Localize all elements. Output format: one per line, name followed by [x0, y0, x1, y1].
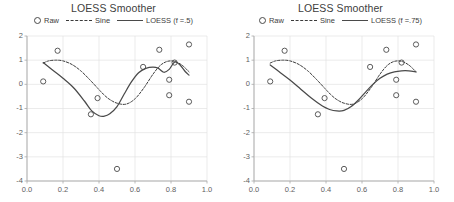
- chart-panel-left: LOESS Smoother Raw Sine LOESS (f =.5) 21…: [0, 0, 227, 202]
- data-point-raw: [413, 42, 418, 47]
- x-axis-tick-label: 0.0: [22, 185, 32, 194]
- x-axis-tick-label: 1.0: [202, 185, 212, 194]
- data-point-raw: [88, 112, 93, 117]
- data-point-raw: [95, 96, 100, 101]
- x-axis-tick-label: 0.8: [166, 185, 176, 194]
- y-axis-tick-label: -2: [243, 128, 250, 137]
- x-axis-tick-label: 0.0: [249, 185, 259, 194]
- data-point-raw: [141, 64, 146, 69]
- data-point-raw: [114, 166, 119, 171]
- chart-panel-right: LOESS Smoother Raw Sine LOESS (f =.75) 2…: [227, 0, 454, 202]
- data-point-raw: [399, 60, 404, 65]
- y-axis-tick-label: -1: [243, 103, 250, 112]
- x-axis-tick-label: 0.6: [357, 185, 367, 194]
- y-axis-tick-label: 2: [19, 31, 23, 40]
- plot-area-right: 210-1-2-3-40.00.20.40.60.81.0: [227, 0, 454, 202]
- sine-curve: [43, 60, 189, 104]
- y-axis-tick-label: -3: [243, 152, 250, 161]
- loess-curve: [270, 65, 416, 111]
- y-axis-tick-label: 0: [246, 79, 250, 88]
- x-axis-tick-label: 0.8: [393, 185, 403, 194]
- data-point-raw: [157, 47, 162, 52]
- data-point-raw: [41, 79, 46, 84]
- data-point-raw: [186, 99, 191, 104]
- data-point-raw: [55, 48, 60, 53]
- data-point-raw: [384, 47, 389, 52]
- data-point-raw: [341, 166, 346, 171]
- data-point-raw: [282, 48, 287, 53]
- data-point-raw: [368, 64, 373, 69]
- x-axis-tick-label: 0.4: [321, 185, 331, 194]
- x-axis-tick-label: 0.6: [130, 185, 140, 194]
- data-point-raw: [186, 42, 191, 47]
- x-axis-tick-label: 1.0: [429, 185, 439, 194]
- x-axis-tick-label: 0.2: [285, 185, 295, 194]
- data-point-raw: [268, 79, 273, 84]
- y-axis-tick-label: 1: [246, 55, 250, 64]
- figure-canvas: LOESS Smoother Raw Sine LOESS (f =.5) 21…: [0, 0, 454, 202]
- x-axis-tick-label: 0.2: [58, 185, 68, 194]
- y-axis-tick-label: 1: [19, 55, 23, 64]
- y-axis-tick-label: -1: [16, 103, 23, 112]
- y-axis-tick-label: 0: [19, 79, 23, 88]
- y-axis-tick-label: 2: [246, 31, 250, 40]
- data-point-raw: [322, 96, 327, 101]
- data-point-raw: [315, 112, 320, 117]
- plot-area-left: 210-1-2-3-40.00.20.40.60.81.0: [0, 0, 227, 202]
- y-axis-tick-label: -3: [16, 152, 23, 161]
- x-axis-tick-label: 0.4: [94, 185, 104, 194]
- data-point-raw: [413, 99, 418, 104]
- y-axis-tick-label: -2: [16, 128, 23, 137]
